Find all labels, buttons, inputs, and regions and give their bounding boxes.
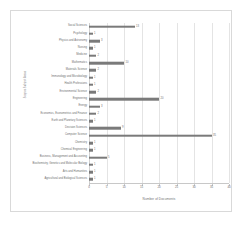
bar-row: Chemical Engineering1 bbox=[89, 147, 229, 154]
bar-row: Business, Management and Accounting5 bbox=[89, 154, 229, 161]
category-label: Earth and Planetary Sciences bbox=[52, 120, 87, 123]
category-label: Physics and Astronomy bbox=[59, 40, 87, 43]
x-tick-label-35: 35 bbox=[210, 186, 213, 189]
bar-row: Chemistry1 bbox=[89, 139, 229, 146]
x-axis-title: Number of Documents bbox=[89, 197, 229, 201]
x-tick-label-40: 40 bbox=[227, 186, 230, 189]
bar-value-label: 1 bbox=[94, 178, 96, 181]
bar-value-label: 1 bbox=[94, 83, 96, 86]
bar-value-label: 3 bbox=[101, 40, 103, 43]
bar-row: Health Professions1 bbox=[89, 81, 229, 88]
bar-row: Energy3 bbox=[89, 103, 229, 110]
chart-plot-frame: Scopus Subject Areas Social Sciences13Ps… bbox=[10, 10, 232, 212]
y-axis-title: Scopus Subject Areas bbox=[24, 55, 27, 115]
bar bbox=[89, 91, 96, 94]
bar-value-label: 5 bbox=[108, 156, 110, 159]
category-label: Energy bbox=[78, 105, 87, 108]
bar bbox=[89, 113, 96, 116]
bar bbox=[89, 76, 93, 79]
bar-rows: Social Sciences13Psychology1Physics and … bbox=[89, 23, 229, 183]
x-tick-label-20: 20 bbox=[157, 186, 160, 189]
bar bbox=[89, 25, 135, 28]
bar bbox=[89, 62, 124, 65]
bar-value-label: 1 bbox=[94, 142, 96, 145]
category-label: Environmental Science bbox=[60, 91, 88, 94]
bar bbox=[89, 149, 93, 152]
bar-row: Biochemistry, Genetics and Molecular Bio… bbox=[89, 161, 229, 168]
bar-row: Decision Sciences9 bbox=[89, 125, 229, 132]
bar bbox=[89, 84, 93, 87]
bar-value-label: 10 bbox=[126, 62, 129, 65]
category-label: Psychology bbox=[73, 33, 87, 36]
category-label: Economics, Econometrics and Finance bbox=[41, 113, 87, 116]
bar bbox=[89, 156, 107, 159]
category-label: Computer Science bbox=[65, 134, 87, 137]
bar-chart: Scopus Subject Areas Social Sciences13Ps… bbox=[0, 0, 243, 229]
category-label: Biochemistry, Genetics and Molecular Bio… bbox=[33, 163, 87, 166]
bar-row: Arts and Humanities1 bbox=[89, 168, 229, 175]
bar bbox=[89, 127, 121, 130]
category-label: Chemical Engineering bbox=[61, 149, 87, 152]
category-label: Business, Management and Accounting bbox=[40, 156, 87, 159]
x-tick-label-25: 25 bbox=[175, 186, 178, 189]
bar bbox=[89, 105, 100, 108]
x-axis-ticks: 0510152025303540 bbox=[89, 184, 229, 194]
x-tick-label-15: 15 bbox=[140, 186, 143, 189]
category-label: Materials Science bbox=[66, 69, 87, 72]
bar-row: Mathematics10 bbox=[89, 59, 229, 66]
bar-value-label: 20 bbox=[161, 98, 164, 101]
plot-area: Social Sciences13Psychology1Physics and … bbox=[89, 23, 229, 183]
x-tick-label-5: 5 bbox=[106, 186, 108, 189]
bar-row: Medicine2 bbox=[89, 52, 229, 59]
bar bbox=[89, 178, 93, 181]
bar bbox=[89, 54, 96, 57]
bar bbox=[89, 164, 93, 167]
bar bbox=[89, 40, 100, 43]
bar-value-label: 2 bbox=[98, 113, 100, 116]
bar-value-label: 13 bbox=[136, 25, 139, 28]
bar bbox=[89, 134, 212, 137]
bar-value-label: 1 bbox=[94, 149, 96, 152]
category-label: Engineering bbox=[73, 98, 87, 101]
bar bbox=[89, 171, 93, 174]
bar-value-label: 1 bbox=[94, 120, 96, 123]
x-tick-label-30: 30 bbox=[192, 186, 195, 189]
bar-row: Agricultural and Biological Sciences1 bbox=[89, 176, 229, 183]
bar-value-label: 2 bbox=[98, 54, 100, 57]
bar-value-label: 1 bbox=[94, 33, 96, 36]
category-label: Arts and Humanities bbox=[63, 171, 87, 174]
bar-value-label: 1 bbox=[94, 76, 96, 79]
bar-value-label: 35 bbox=[213, 134, 216, 137]
bar-value-label: 1 bbox=[94, 163, 96, 166]
bar-value-label: 1 bbox=[94, 47, 96, 50]
bar-value-label: 1 bbox=[94, 171, 96, 174]
bar-row: Psychology1 bbox=[89, 30, 229, 37]
bar bbox=[89, 69, 96, 72]
bar-value-label: 3 bbox=[101, 105, 103, 108]
category-label: Health Professions bbox=[64, 83, 87, 86]
category-label: Medicine bbox=[76, 54, 87, 57]
category-label: Nursing bbox=[78, 47, 87, 50]
bar bbox=[89, 98, 159, 101]
bar-row: Physics and Astronomy3 bbox=[89, 38, 229, 45]
bar-row: Economics, Econometrics and Finance2 bbox=[89, 110, 229, 117]
bar bbox=[89, 120, 93, 123]
category-label: Chemistry bbox=[75, 142, 87, 145]
bar-value-label: 9 bbox=[122, 127, 124, 130]
bar-row: Computer Science35 bbox=[89, 132, 229, 139]
x-tick-label-0: 0 bbox=[88, 186, 90, 189]
category-label: Agricultural and Biological Sciences bbox=[44, 178, 87, 181]
bar-row: Earth and Planetary Sciences1 bbox=[89, 118, 229, 125]
bar bbox=[89, 142, 93, 145]
category-label: Immunology and Microbiology bbox=[51, 76, 87, 79]
category-label: Mathematics bbox=[72, 62, 87, 65]
bar-row: Nursing1 bbox=[89, 45, 229, 52]
category-label: Decision Sciences bbox=[65, 127, 87, 130]
category-label: Social Sciences bbox=[68, 25, 87, 28]
bar bbox=[89, 47, 93, 50]
bar-row: Environmental Science2 bbox=[89, 88, 229, 95]
bar-row: Engineering20 bbox=[89, 96, 229, 103]
bar-row: Materials Science2 bbox=[89, 67, 229, 74]
gridline-40 bbox=[229, 23, 230, 183]
bar-row: Social Sciences13 bbox=[89, 23, 229, 30]
